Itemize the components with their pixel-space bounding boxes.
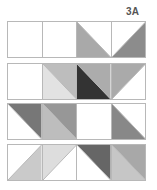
- tile-cell: [112, 22, 146, 57]
- tile-cell: [112, 145, 146, 180]
- figure-label: 3A: [126, 6, 139, 17]
- tile-cell: [43, 104, 78, 139]
- triangle-tile-icon: [77, 64, 111, 99]
- tile-row-4: [7, 144, 146, 181]
- tile-row-2: [7, 63, 146, 100]
- triangle-tile-icon: [112, 104, 146, 139]
- triangle-tile-icon: [112, 145, 146, 180]
- tile-row-3: [7, 103, 146, 140]
- tile-cell: [8, 22, 43, 57]
- tile-cell: [77, 145, 112, 180]
- triangle-tile-icon: [8, 104, 42, 139]
- tile-cell: [77, 104, 112, 139]
- triangle-tile-icon: [43, 104, 77, 139]
- triangle-tile-icon: [8, 22, 42, 57]
- tile-cell: [8, 145, 43, 180]
- triangle-tile-icon: [8, 64, 42, 99]
- triangle-tile-icon: [8, 145, 42, 180]
- triangle-tile-icon: [43, 64, 77, 99]
- triangle-tile-icon: [43, 145, 77, 180]
- tile-cell: [112, 64, 146, 99]
- triangle-tile-icon: [112, 22, 146, 57]
- triangle-tile-icon: [77, 22, 111, 57]
- triangle-tile-icon: [112, 64, 146, 99]
- tile-cell: [112, 104, 146, 139]
- tile-cell: [8, 104, 43, 139]
- tile-row-1: [7, 21, 146, 58]
- tile-cell: [77, 22, 112, 57]
- tile-cell: [43, 22, 78, 57]
- tile-cell: [77, 64, 112, 99]
- triangle-tile-icon: [77, 104, 111, 139]
- triangle-tile-icon: [77, 145, 111, 180]
- tile-cell: [43, 145, 78, 180]
- tile-cell: [43, 64, 78, 99]
- triangle-tile-icon: [43, 22, 77, 57]
- tile-cell: [8, 64, 43, 99]
